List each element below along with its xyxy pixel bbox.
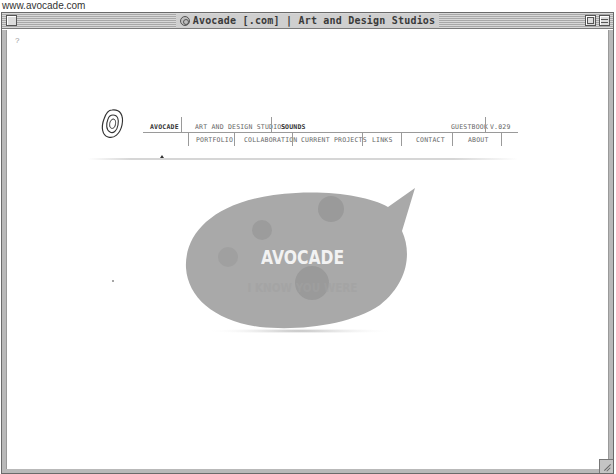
title-container: Avocade [.com] | Art and Design Studios	[2, 13, 613, 28]
nav-underline	[88, 158, 518, 160]
nav-divider	[452, 132, 453, 146]
nav-item-sounds[interactable]: SOUNDS	[281, 123, 306, 131]
avocade-speech-bubble[interactable]: AVOCADE I KNOW YOU WERE	[180, 183, 425, 333]
nav-divider	[271, 117, 272, 133]
window-title-group: Avocade [.com] | Art and Design Studios	[176, 14, 440, 28]
globe-icon	[180, 16, 190, 26]
window-frame-bottom	[2, 469, 613, 473]
nav-divider	[501, 132, 502, 146]
nav-item-collaboration[interactable]: COLLABORATION	[244, 136, 297, 144]
nav-divider	[362, 132, 363, 146]
collapse-box-icon[interactable]	[599, 15, 610, 26]
nav-item-contact[interactable]: CONTACT	[416, 136, 445, 144]
url-caption: www.avocade.com	[2, 0, 85, 12]
nav-item-guestbook[interactable]: GUESTBOOK	[451, 123, 488, 131]
window-title: Avocade [.com] | Art and Design Studios	[193, 15, 436, 26]
nav-divider	[292, 132, 293, 146]
nav-divider	[401, 132, 402, 146]
resize-grip-icon[interactable]	[599, 459, 613, 473]
nav-item-current-projects[interactable]: CURRENT PROJECTS	[301, 136, 367, 144]
nav-divider	[485, 117, 486, 133]
nav-divider	[181, 117, 182, 133]
zoom-box-icon[interactable]	[585, 15, 596, 26]
active-marker-icon	[160, 155, 164, 158]
nav-item-portfolio[interactable]: PORTFOLIO	[196, 136, 233, 144]
spiral-logo-icon[interactable]	[98, 107, 128, 141]
version-label: V.029	[490, 123, 511, 131]
nav-item-about[interactable]: ABOUT	[468, 136, 489, 144]
title-bar[interactable]: Avocade [.com] | Art and Design Studios	[2, 13, 613, 29]
nav-item-avocade[interactable]: AVOCADE	[150, 123, 179, 131]
nav-row-divider	[143, 132, 518, 133]
help-mark: ?	[15, 36, 19, 45]
bubble-title: AVOCADE	[207, 245, 398, 269]
nav-divider	[188, 132, 189, 146]
nav-divider	[234, 132, 235, 146]
site-navigation: AVOCADE ART AND DESIGN STUDIOS SOUNDS GU…	[88, 105, 518, 147]
decorative-dot	[112, 280, 114, 282]
bubble-subtitle: I KNOW YOU WERE	[205, 280, 401, 295]
nav-item-links[interactable]: LINKS	[372, 136, 393, 144]
window-frame-right	[609, 30, 613, 473]
